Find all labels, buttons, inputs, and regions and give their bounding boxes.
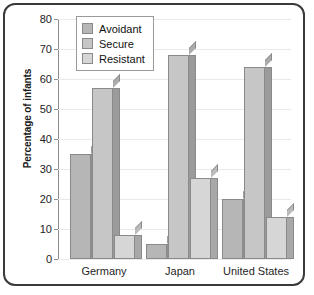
bar-side (135, 235, 142, 259)
legend-swatch-avoidant (82, 23, 93, 34)
y-tick-mark (54, 229, 58, 230)
bar-face (266, 217, 287, 259)
bar-face (244, 67, 265, 259)
y-tick-label: 0 (46, 253, 52, 265)
y-tick-label: 20 (40, 193, 52, 205)
y-tick-label: 80 (40, 13, 52, 25)
legend-item-secure: Secure (82, 36, 145, 51)
bar-side (113, 88, 120, 259)
y-tick-mark (54, 79, 58, 80)
bar-germany-secure (92, 88, 113, 259)
y-tick-label: 40 (40, 133, 52, 145)
bar-face (92, 88, 113, 259)
legend-swatch-resistant (82, 53, 93, 64)
legend-item-avoidant: Avoidant (82, 21, 145, 36)
y-axis-title: Percentage of infants (22, 49, 33, 189)
y-tick-mark (54, 19, 58, 20)
y-tick-mark (54, 169, 58, 170)
bar-top (113, 74, 120, 88)
bar-face (114, 235, 135, 259)
bar-face (70, 154, 91, 259)
bar-side (287, 217, 294, 259)
legend-swatch-secure (82, 38, 93, 49)
y-tick-label: 70 (40, 43, 52, 55)
y-tick-mark (54, 259, 58, 260)
bar-germany-avoidant (70, 154, 91, 259)
bar-germany-resistant (114, 235, 135, 259)
gridline (58, 259, 291, 260)
y-tick-label: 50 (40, 103, 52, 115)
y-tick-mark (54, 49, 58, 50)
bar-united-states-avoidant (222, 199, 243, 259)
bar-side (211, 178, 218, 259)
legend-rows: AvoidantSecureResistant (82, 21, 145, 66)
bar-top (265, 53, 272, 67)
x-category-label: United States (223, 265, 289, 277)
bar-top (135, 221, 142, 235)
x-category-label: Germany (81, 265, 126, 277)
legend-label: Avoidant (99, 23, 142, 35)
bar-top (287, 203, 294, 217)
legend-label: Secure (99, 38, 134, 50)
bar-united-states-resistant (266, 217, 287, 259)
bar-chart: Percentage of infants 01020304050607080 … (5, 5, 307, 288)
bar-japan-avoidant (146, 244, 167, 259)
bar-face (222, 199, 243, 259)
y-tick-label: 60 (40, 73, 52, 85)
bar-united-states-secure (244, 67, 265, 259)
bar-top (189, 41, 196, 55)
y-tick-mark (54, 109, 58, 110)
y-tick-label: 10 (40, 223, 52, 235)
bar-face (146, 244, 167, 259)
y-tick-label: 30 (40, 163, 52, 175)
bar-face (190, 178, 211, 259)
chart-legend: AvoidantSecureResistant (76, 16, 154, 71)
chart-figure-frame: Percentage of infants 01020304050607080 … (3, 3, 305, 286)
bar-japan-secure (168, 55, 189, 259)
x-category-label: Japan (165, 265, 195, 277)
legend-item-resistant: Resistant (82, 51, 145, 66)
bar-face (168, 55, 189, 259)
y-tick-mark (54, 139, 58, 140)
legend-label: Resistant (99, 53, 145, 65)
bar-top (211, 164, 218, 178)
bar-japan-resistant (190, 178, 211, 259)
y-tick-mark (54, 199, 58, 200)
